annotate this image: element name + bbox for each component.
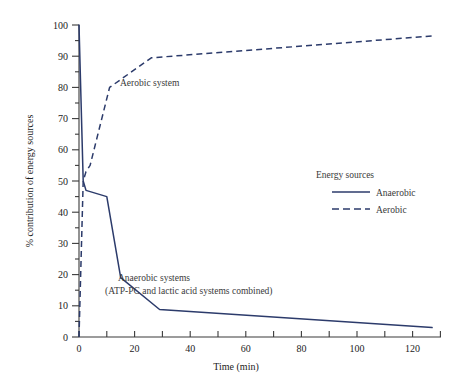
x-tick-label: 120 (405, 343, 420, 354)
y-tick-label: 30 (58, 238, 68, 249)
energy-contribution-line-chart: 0 10 20 30 40 50 60 70 80 90 100 (0, 0, 456, 377)
anaerobic-systems-annotation-line1: Anaerobic systems (118, 273, 190, 283)
y-axis-title: % contribution of energy sources (24, 115, 35, 248)
x-tick-label: 100 (350, 343, 365, 354)
x-axis-ticks (79, 331, 440, 337)
legend-item-aerobic[interactable]: Aerobic (332, 205, 407, 215)
x-axis-tick-labels: 0 20 40 60 80 100 120 (77, 343, 421, 354)
y-axis-tick-labels: 0 10 20 30 40 50 60 70 80 90 100 (53, 20, 68, 343)
plot-annotations: Aerobic system Anaerobic systems (ATP-PC… (105, 78, 273, 297)
legend-title: Energy sources (316, 170, 374, 180)
legend-label-anaerobic: Anaerobic (376, 188, 416, 198)
legend-item-anaerobic[interactable]: Anaerobic (332, 188, 416, 198)
y-axis-ticks (72, 25, 79, 337)
y-tick-label: 50 (58, 176, 68, 187)
anaerobic-systems-annotation-line2: (ATP-PC and lactic acid systems combined… (105, 286, 273, 297)
aerobic-system-annotation: Aerobic system (120, 78, 180, 88)
y-tick-label: 90 (58, 51, 68, 62)
x-tick-label: 40 (185, 343, 195, 354)
x-tick-label: 0 (77, 343, 82, 354)
y-tick-label: 0 (63, 332, 68, 343)
legend-label-aerobic: Aerobic (376, 205, 407, 215)
y-tick-label: 80 (58, 82, 68, 93)
x-tick-label: 20 (130, 343, 140, 354)
y-tick-label: 70 (58, 113, 68, 124)
x-tick-label: 80 (296, 343, 306, 354)
y-tick-label: 60 (58, 144, 68, 155)
y-tick-label: 10 (58, 300, 68, 311)
chart-container: 0 10 20 30 40 50 60 70 80 90 100 (0, 0, 456, 377)
x-tick-label: 60 (241, 343, 251, 354)
y-tick-label: 100 (53, 20, 68, 31)
legend: Energy sources Anaerobic Aerobic (316, 170, 416, 215)
y-tick-label: 20 (58, 269, 68, 280)
x-axis-title: Time (min) (213, 361, 258, 373)
y-tick-label: 40 (58, 207, 68, 218)
